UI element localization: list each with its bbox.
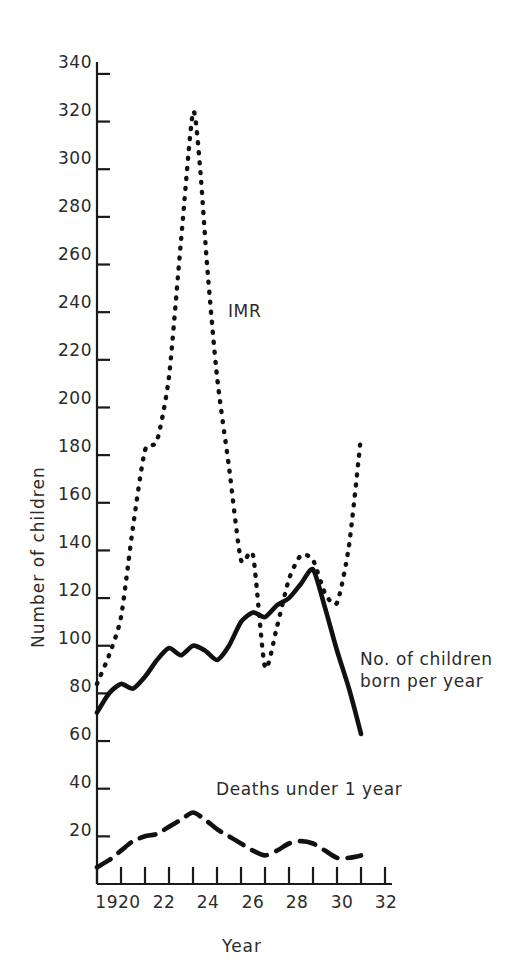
chart-plot-area xyxy=(0,0,531,979)
axis-lines xyxy=(97,62,392,884)
series-line-deaths xyxy=(97,813,361,868)
series-line-births xyxy=(97,569,361,734)
chart-figure: 340 320 300 280 260 240 220 200 180 160 … xyxy=(0,0,531,979)
y-axis-ticks xyxy=(97,74,110,836)
x-axis-ticks xyxy=(97,867,385,884)
